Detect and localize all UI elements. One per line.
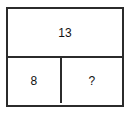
figure-bottom-row: 8 ? [8, 58, 122, 103]
puzzle-figure: 13 8 ? [6, 7, 124, 107]
bottom-right-cell-value: ? [89, 75, 96, 87]
bottom-left-cell: 8 [8, 58, 62, 103]
top-cell-value: 13 [58, 27, 72, 39]
bottom-left-cell-value: 8 [31, 75, 38, 87]
figure-top-row: 13 [8, 9, 122, 58]
bottom-right-cell: ? [62, 58, 122, 103]
top-cell: 13 [8, 9, 122, 56]
